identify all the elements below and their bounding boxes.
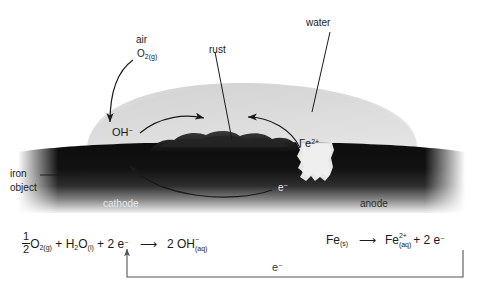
corrosion-diagram: air O2(g) rust water OH− Γe2+ iron objec… (0, 0, 483, 287)
anode-electrons: 2 e (424, 233, 441, 247)
ferrous-product-charge: 2+ (399, 232, 407, 239)
air-formula-element: O (137, 48, 145, 59)
cathode-electrons: 2 e (107, 237, 124, 251)
anode-reaction-arrow: ⟶ (359, 233, 375, 247)
iron-reactant: Fe (326, 233, 340, 247)
fraction-denominator: 2 (22, 244, 30, 256)
iron-object (18, 141, 465, 213)
label-iron-object-line1: iron (10, 168, 27, 180)
electron-charge: − (284, 182, 288, 189)
ferrous-formula: Γe (299, 137, 311, 149)
cathode-plus-1: + (55, 237, 62, 251)
water-state-subscript: (l) (88, 244, 94, 251)
fraction-numerator: 1 (22, 231, 30, 244)
water-oxygen: O (78, 237, 87, 251)
water-hydrogen: H (66, 237, 75, 251)
cathode-electron-charge: − (124, 239, 128, 246)
anode-plus: + (413, 233, 420, 247)
hydroxide-product-charge: − (195, 236, 199, 243)
label-air-formula: O2(g) (137, 48, 157, 61)
label-cathode: cathode (103, 198, 139, 210)
hydroxide-charge: − (129, 127, 133, 134)
ferrous-product-state: (aq) (399, 241, 411, 248)
hydroxide-product-state: (aq) (195, 245, 207, 252)
iron-reactant-state: (s) (340, 240, 348, 247)
cathode-plus-2: + (97, 237, 104, 251)
cathode-half-reaction: 1 2 O2(g) + H2O(l) + 2 e− ⟶ 2 OH − (aq) (22, 231, 195, 255)
label-water: water (306, 17, 330, 29)
hydroxide-formula: OH (112, 126, 129, 138)
ferrous-charge: 2+ (311, 138, 319, 145)
circuit-electron-charge: − (278, 262, 282, 269)
label-ferrous-ion: Γe2+ (299, 137, 319, 150)
hydroxide-product: 2 OH (167, 237, 195, 251)
anode-half-reaction: Fe(s) ⟶ Fe 2+ (aq) + 2 e− (326, 234, 444, 247)
air-formula-subscript: 2(g) (145, 53, 157, 60)
anode-electron-charge: − (440, 235, 444, 242)
circuit-electron-label: e− (272, 262, 282, 273)
label-hydroxide: OH− (112, 126, 133, 139)
oxygen-subscript: 2(g) (39, 244, 51, 251)
label-iron-object-line2: object (10, 182, 37, 194)
label-air: air (136, 34, 147, 46)
ferrous-product: Fe (385, 233, 399, 247)
cathode-reaction-arrow: ⟶ (140, 237, 156, 251)
label-electron-in-metal: e− (278, 182, 288, 194)
label-anode: anode (360, 198, 388, 210)
one-half-fraction: 1 2 (22, 231, 30, 255)
label-rust: rust (209, 44, 226, 56)
